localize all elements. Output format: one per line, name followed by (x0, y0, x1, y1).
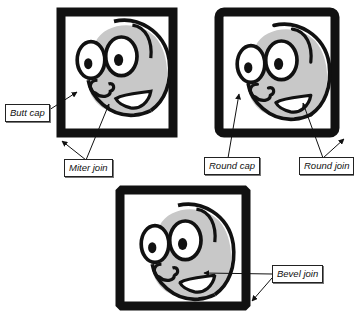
panel-bevel (120, 190, 246, 306)
label-round-cap: Round cap (204, 157, 260, 175)
panel-round (219, 12, 335, 133)
panel-miter (61, 12, 173, 133)
label-butt-cap: Butt cap (5, 104, 50, 122)
label-round-join: Round join (299, 157, 354, 175)
label-bevel-join: Bevel join (272, 265, 323, 283)
label-miter-join: Miter join (64, 159, 113, 177)
